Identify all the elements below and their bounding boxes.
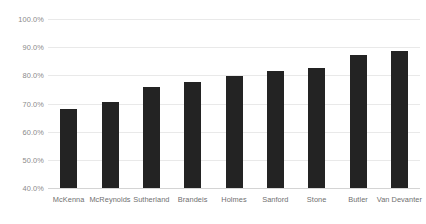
y-axis-tick-label: 50.0%	[0, 155, 44, 164]
bar	[184, 82, 201, 188]
bars-layer	[48, 19, 420, 188]
bar	[102, 102, 119, 188]
bar-chart: 100.0%90.0%80.0%70.0%60.0%50.0%40.0% McK…	[0, 0, 426, 224]
x-axis-tick-label: Butler	[348, 195, 368, 204]
x-axis-tick-label: McReynolds	[89, 195, 130, 204]
y-axis-tick-label: 80.0%	[0, 71, 44, 80]
x-axis-tick-label: Van Devanter	[377, 195, 422, 204]
bar	[350, 55, 367, 188]
y-axis-tick-label: 70.0%	[0, 99, 44, 108]
x-axis-tick-labels: McKennaMcReynoldsSutherlandBrandeisHolme…	[48, 191, 420, 211]
y-axis-tick-label: 100.0%	[0, 15, 44, 24]
x-axis-tick-label: Holmes	[221, 195, 246, 204]
x-axis-tick-label: McKenna	[53, 195, 85, 204]
bar	[143, 87, 160, 188]
bar	[391, 51, 408, 188]
x-axis-tick-label: Sutherland	[133, 195, 169, 204]
bar	[60, 109, 77, 188]
bar	[308, 68, 325, 188]
y-axis-tick-label: 40.0%	[0, 184, 44, 193]
bar	[226, 76, 243, 188]
y-axis-tick-label: 90.0%	[0, 43, 44, 52]
x-axis-tick-label: Stone	[307, 195, 327, 204]
y-axis-tick-label: 60.0%	[0, 127, 44, 136]
gridline-40	[48, 188, 420, 189]
y-axis-tick-labels: 100.0%90.0%80.0%70.0%60.0%50.0%40.0%	[0, 19, 44, 188]
x-axis-tick-label: Brandeis	[178, 195, 208, 204]
bar	[267, 71, 284, 188]
x-axis-tick-label: Sanford	[262, 195, 288, 204]
